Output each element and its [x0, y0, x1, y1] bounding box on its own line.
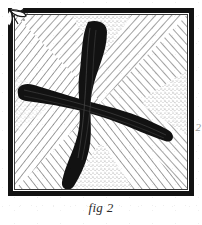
figure-illustration — [8, 8, 194, 196]
figure-caption: fig 2 — [0, 200, 202, 216]
figure-panel — [8, 8, 194, 196]
figure-root: 2 fig 2 — [0, 0, 202, 225]
margin-page-mark: 2 — [196, 122, 202, 133]
